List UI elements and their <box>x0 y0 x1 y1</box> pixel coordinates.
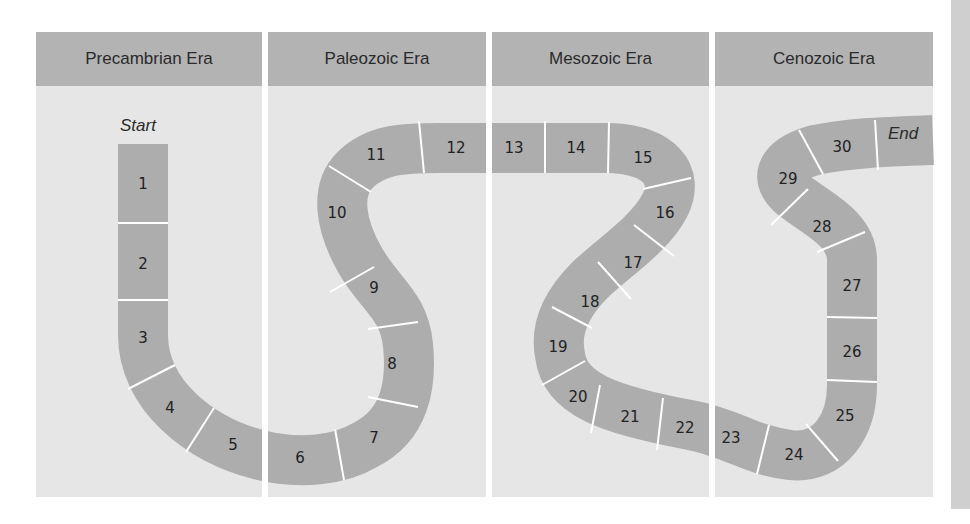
tile-18: 18 <box>580 293 599 311</box>
tile-14: 14 <box>566 139 585 157</box>
tile-5: 5 <box>228 436 238 454</box>
tile-22: 22 <box>675 419 694 437</box>
tile-19: 19 <box>548 338 567 356</box>
game-board-path: 1 2 3 4 5 6 7 8 9 10 11 12 13 14 15 16 1… <box>0 0 970 524</box>
tile-3: 3 <box>138 329 148 347</box>
start-label: Start <box>120 116 156 136</box>
tile-30: 30 <box>832 138 851 156</box>
tile-9: 9 <box>369 279 379 297</box>
tile-13: 13 <box>504 139 523 157</box>
tile-labels: 1 2 3 4 5 6 7 8 9 10 11 12 13 14 15 16 1… <box>138 138 861 467</box>
tile-25: 25 <box>835 407 854 425</box>
tile-17: 17 <box>623 254 642 272</box>
tile-26: 26 <box>842 343 861 361</box>
tile-16: 16 <box>655 204 674 222</box>
tile-7: 7 <box>369 429 379 447</box>
tile-23: 23 <box>721 429 740 447</box>
tile-10: 10 <box>327 204 346 222</box>
tile-8: 8 <box>387 355 397 373</box>
tile-28: 28 <box>812 218 831 236</box>
tile-27: 27 <box>842 277 861 295</box>
tile-6: 6 <box>295 449 305 467</box>
tile-4: 4 <box>165 399 175 417</box>
panel-gap <box>486 32 492 497</box>
tile-29: 29 <box>778 170 797 188</box>
tile-1: 1 <box>138 175 148 193</box>
end-label: End <box>888 124 918 144</box>
panel-gap <box>709 32 715 497</box>
tile-24: 24 <box>784 446 803 464</box>
tile-11: 11 <box>366 146 385 164</box>
tile-20: 20 <box>568 388 587 406</box>
tile-2: 2 <box>138 255 148 273</box>
tile-12: 12 <box>446 139 465 157</box>
start-cap <box>118 144 168 146</box>
path-band <box>143 140 933 460</box>
tile-15: 15 <box>633 149 652 167</box>
panel-gap <box>262 32 268 497</box>
tile-21: 21 <box>620 408 639 426</box>
